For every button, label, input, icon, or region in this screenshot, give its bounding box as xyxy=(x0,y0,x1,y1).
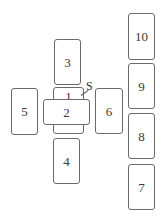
card-9: 9 xyxy=(128,63,155,109)
card-4: 4 xyxy=(53,138,80,184)
card-9-label: 9 xyxy=(138,80,145,93)
card-2: 2 xyxy=(43,99,90,125)
card-8: 8 xyxy=(128,113,155,159)
card-6-label: 6 xyxy=(106,105,113,118)
card-6: 6 xyxy=(95,88,123,134)
card-8-label: 8 xyxy=(138,130,145,143)
card-4-label: 4 xyxy=(63,155,70,168)
card-2-label: 2 xyxy=(63,106,70,119)
card-5-label: 5 xyxy=(21,105,28,118)
card-10-label: 10 xyxy=(135,30,148,43)
card-3: 3 xyxy=(54,39,81,85)
card-10: 10 xyxy=(128,13,155,60)
card-7-label: 7 xyxy=(138,181,145,194)
card-3-label: 3 xyxy=(64,56,71,69)
card-7: 7 xyxy=(128,164,155,210)
card-5: 5 xyxy=(11,88,38,135)
